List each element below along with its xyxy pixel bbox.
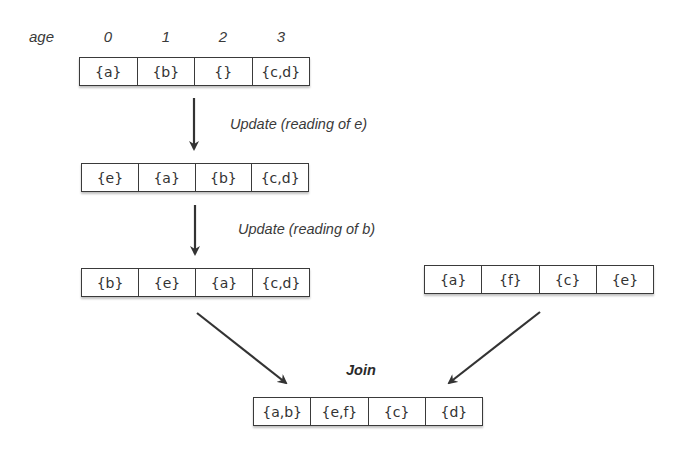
arrows-layer [0,0,679,452]
diagonal-arrow-icon [197,313,286,383]
diagonal-arrow-icon [449,312,540,383]
